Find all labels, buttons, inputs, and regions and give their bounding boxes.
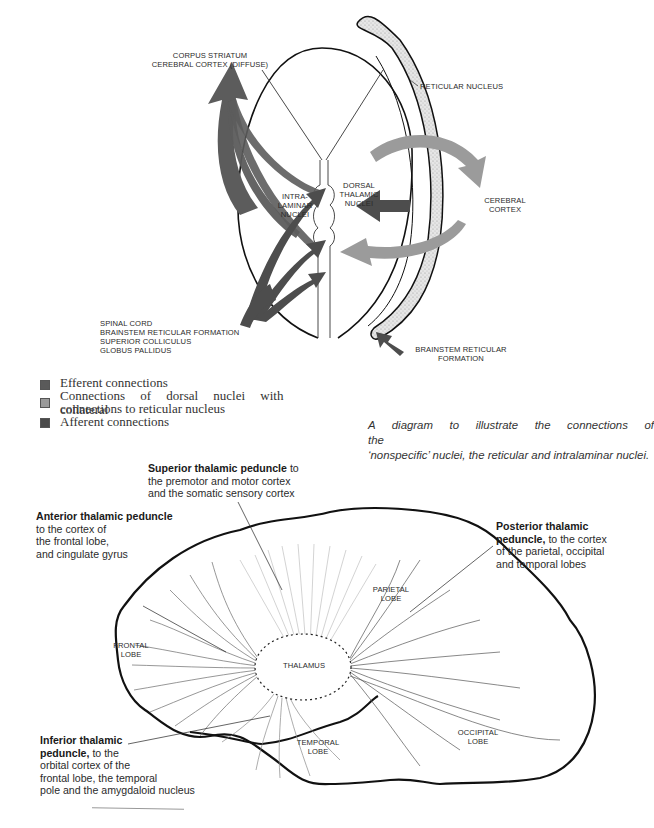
- annotation-superior-peduncle: Superior thalamic peduncle to the premot…: [148, 462, 299, 500]
- superior-peduncle-title: Superior thalamic peduncle: [148, 462, 287, 474]
- inferior-peduncle-title2: peduncle,: [40, 747, 89, 759]
- annotation-inferior-peduncle: Inferior thalamic peduncle, to the orbit…: [40, 734, 195, 797]
- posterior-peduncle-line3: and temporal lobes: [496, 558, 607, 571]
- superior-peduncle-to: to: [287, 462, 299, 474]
- label-occipital-lobe: OCCIPITAL LOBE: [450, 728, 506, 746]
- superior-fibers: [240, 544, 376, 648]
- anterior-peduncle-line3: and cingulate gyrus: [36, 548, 173, 561]
- parietal-line1: PARIETAL: [366, 585, 416, 594]
- inferior-peduncle-line4: pole and the amygdaloid nucleus: [40, 784, 195, 797]
- inferior-peduncle-title1: Inferior thalamic: [40, 734, 122, 746]
- occipital-line2: LOBE: [450, 737, 506, 746]
- annotation-posterior-peduncle: Posterior thalamic peduncle, to the cort…: [496, 520, 607, 570]
- frontal-line1: FRONTAL: [106, 641, 156, 650]
- superior-peduncle-line3: and the somatic sensory cortex: [148, 487, 299, 500]
- label-thalamus: THALAMUS: [276, 661, 332, 670]
- label-temporal-lobe: TEMPORAL LOBE: [290, 738, 346, 756]
- occipital-line1: OCCIPITAL: [450, 728, 506, 737]
- inferior-peduncle-line3: frontal lobe, the temporal: [40, 772, 195, 785]
- temporal-fold: [190, 696, 378, 744]
- posterior-peduncle-title1: Posterior thalamic: [496, 520, 588, 532]
- anterior-peduncle-line2: the frontal lobe,: [36, 535, 173, 548]
- temporal-line1: TEMPORAL: [290, 738, 346, 747]
- leader-lines: [128, 502, 493, 744]
- frontal-line2: LOBE: [106, 650, 156, 659]
- anterior-peduncle-line1: to the cortex of: [36, 523, 173, 536]
- parietal-line2: LOBE: [366, 594, 416, 603]
- temporal-line2: LOBE: [290, 747, 346, 756]
- posterior-peduncle-line1: to the cortex: [545, 533, 606, 545]
- superior-peduncle-line2: the premotor and motor cortex: [148, 475, 299, 488]
- annotation-anterior-peduncle: Anterior thalamic peduncle to the cortex…: [36, 510, 173, 560]
- posterior-peduncle-line2: of the parietal, occipital: [496, 545, 607, 558]
- label-frontal-lobe: FRONTAL LOBE: [106, 641, 156, 659]
- inferior-peduncle-line2: orbital cortex of the: [40, 759, 195, 772]
- posterior-peduncle-title2: peduncle,: [496, 533, 545, 545]
- label-parietal-lobe: PARIETAL LOBE: [366, 585, 416, 603]
- inferior-peduncle-line1: to the: [89, 747, 118, 759]
- anterior-peduncle-title: Anterior thalamic peduncle: [36, 510, 173, 522]
